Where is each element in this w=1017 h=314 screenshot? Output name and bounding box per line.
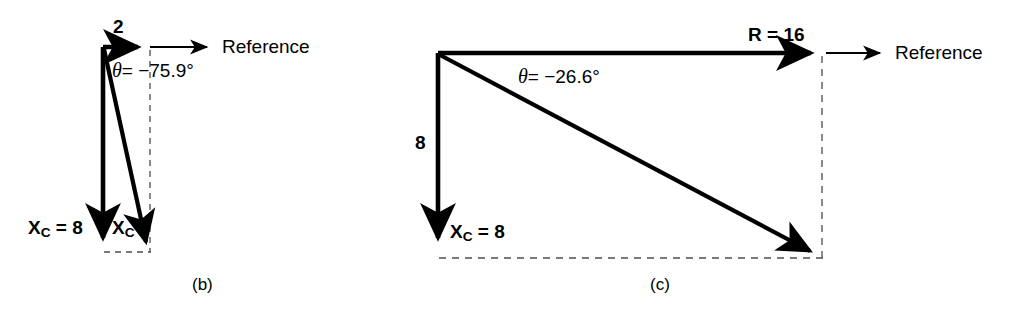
panel-c-horizontal-label-value: = 16 — [762, 24, 805, 45]
panel-b-vertical-label: XC = 8 — [28, 218, 83, 240]
panel-b-vertical-label-sub: C — [41, 225, 51, 240]
panel-c-vertical-label-sub: C — [463, 229, 473, 244]
panel-b-theta-symbol: θ — [112, 59, 122, 81]
panel-b-resultant-label-sub: C — [125, 225, 135, 240]
panel-b-reference-label: Reference — [222, 37, 310, 56]
panel-c-vertical-label-x: X — [450, 221, 463, 242]
panel-b-vertical-label-value: = 8 — [51, 217, 83, 238]
panel-b-vertical-label-x: X — [28, 217, 41, 238]
panel-c-horizontal-label: R = 16 — [748, 25, 805, 44]
phasor-diagram-figure: 2 Reference θ= −75.9° XC = 8 XC (b) R = … — [0, 0, 1017, 314]
panel-c-horizontal-label-r: R — [748, 24, 762, 45]
figure-canvas — [0, 0, 1017, 314]
panel-b-caption: (b) — [192, 276, 213, 293]
panel-c-vertical-label-value: = 8 — [473, 221, 505, 242]
panel-c-reference-label: Reference — [895, 43, 983, 62]
panel-c-vertical-label: XC = 8 — [450, 222, 505, 244]
panel-b-horizontal-label: 2 — [113, 17, 124, 36]
panel-b-resultant-label: XC — [112, 218, 135, 240]
panel-c-angle-label: θ= −26.6° — [518, 66, 600, 86]
panel-b-resultant-label-x: X — [112, 217, 125, 238]
panel-c-angle-value: = −26.6° — [528, 66, 600, 87]
panel-c-side-label: 8 — [415, 133, 426, 152]
panel-c-caption: (c) — [650, 276, 670, 293]
panel-c-theta-symbol: θ — [518, 65, 528, 87]
panel-b-angle-label: θ= −75.9° — [112, 60, 194, 80]
panel-b-angle-value: = −75.9° — [122, 60, 194, 81]
